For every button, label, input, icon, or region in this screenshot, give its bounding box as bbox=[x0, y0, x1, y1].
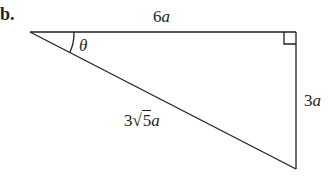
top-side-coef: 6 bbox=[153, 7, 162, 26]
hypotenuse bbox=[30, 32, 296, 169]
hypotenuse-label: 3√5a bbox=[124, 112, 160, 129]
radicand: 5 bbox=[142, 110, 152, 130]
right-angle-marker bbox=[284, 32, 296, 44]
radical-sign: √ bbox=[133, 111, 142, 130]
right-side-coef: 3 bbox=[304, 91, 313, 110]
top-side-var: a bbox=[162, 7, 171, 26]
top-side-label: 6a bbox=[153, 8, 170, 25]
right-side-label: 3a bbox=[304, 92, 321, 109]
hypotenuse-coef: 3 bbox=[124, 111, 133, 130]
part-label: b. bbox=[0, 4, 15, 25]
triangle-drawing bbox=[0, 0, 328, 196]
angle-label-theta: θ bbox=[79, 37, 87, 54]
angle-arc bbox=[70, 32, 74, 52]
triangle-figure: b. 6a 3a 3√5a θ bbox=[0, 0, 328, 196]
hypotenuse-var: a bbox=[151, 111, 160, 130]
right-side-var: a bbox=[313, 91, 322, 110]
sqrt-expression: √5 bbox=[133, 112, 152, 129]
